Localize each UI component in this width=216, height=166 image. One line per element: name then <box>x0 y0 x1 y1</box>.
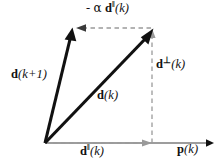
d-parallel-arrowhead-icon <box>142 139 152 146</box>
d-k-plus-1-arrowhead-icon <box>65 28 77 42</box>
minus-sign: - <box>86 1 90 15</box>
vector-d-symbol: d <box>11 67 18 81</box>
vector-d-symbol: d <box>105 1 112 15</box>
label-p-k: p(k) <box>177 143 198 156</box>
label-d-k-plus-1: d(k+1) <box>11 68 47 81</box>
vector-d-symbol: d <box>156 57 163 71</box>
argument-k-plus-1: (k+1) <box>18 67 47 81</box>
alpha-symbol: α <box>94 1 102 15</box>
vector-diagram-figure: - α d‖(k) d(k+1) d(k) d⊥(k) d‖(k) p(k) <box>0 0 216 166</box>
argument-k: (k) <box>104 88 118 102</box>
label-minus-alpha-d-parallel: - α d‖(k) <box>86 2 129 15</box>
vector-p-symbol: p <box>177 142 184 156</box>
argument-k: (k) <box>184 142 198 156</box>
d-k-plus-1-vector-line <box>45 39 70 144</box>
argument-k: (k) <box>171 57 185 71</box>
alpha-d-parallel-arrowhead-icon <box>76 24 86 32</box>
perpendicular-superscript: ⊥ <box>163 55 171 65</box>
label-d-k: d(k) <box>97 89 118 102</box>
label-d-parallel: d‖(k) <box>80 145 104 158</box>
vector-d-symbol: d <box>80 144 87 158</box>
argument-k: (k) <box>90 144 104 158</box>
p-axis-arrowhead-icon <box>206 139 214 147</box>
argument-k: (k) <box>115 1 129 15</box>
vector-d-symbol: d <box>97 88 104 102</box>
label-d-perpendicular: d⊥(k) <box>156 58 185 71</box>
